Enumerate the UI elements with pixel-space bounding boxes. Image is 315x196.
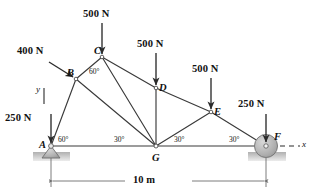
load-label-b: 400 N: [17, 45, 43, 56]
load-label-c: 500 N: [83, 8, 109, 19]
member-C-D: [102, 57, 156, 88]
joint-D: [154, 86, 158, 90]
angle-label-a: 60°: [58, 135, 69, 144]
angle-label-g2: 30°: [174, 135, 185, 144]
joint-E: [209, 110, 213, 114]
axis-label-x: x: [302, 139, 306, 149]
node-label-D: D: [159, 82, 167, 93]
load-label-d: 500 N: [137, 38, 163, 49]
angle-label-f: 30°: [229, 135, 240, 144]
node-label-E: E: [214, 106, 221, 117]
truss-svg: [0, 0, 315, 196]
truss-diagram: 500 N 500 N 500 N 400 N 250 N 250 N C B …: [0, 0, 315, 196]
member-C-G: [102, 57, 156, 146]
truss-members: [51, 57, 266, 146]
load-label-e: 500 N: [192, 63, 218, 74]
joint-G: [154, 144, 158, 148]
node-label-C: C: [94, 45, 101, 56]
joint-B: [74, 77, 78, 81]
load-label-f: 250 N: [238, 98, 264, 109]
node-label-B: B: [67, 67, 74, 78]
load-label-a: 250 N: [5, 112, 31, 123]
dimension-label-span: 10 m: [133, 174, 155, 185]
node-label-G: G: [152, 152, 160, 163]
angle-label-c: 60°: [89, 67, 100, 76]
node-label-F: F: [274, 131, 281, 142]
node-label-A: A: [39, 139, 46, 150]
angle-label-g1: 30°: [114, 135, 125, 144]
axis-label-y: y: [36, 84, 40, 94]
